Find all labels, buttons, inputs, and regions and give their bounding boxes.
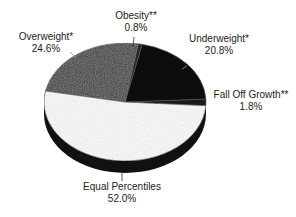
- label-overweight: Overweight* 24.6%: [19, 31, 73, 55]
- label-equal-percentiles-name: Equal Percentiles: [83, 181, 161, 193]
- label-fall-off-growth-pct: 1.8%: [214, 101, 289, 113]
- label-underweight: Underweight* 20.8%: [189, 33, 249, 57]
- label-underweight-name: Underweight*: [189, 33, 249, 45]
- label-equal-percentiles: Equal Percentiles 52.0%: [83, 181, 161, 205]
- pie-slices: [44, 43, 206, 161]
- label-obesity-name: Obesity**: [115, 10, 157, 22]
- label-equal-percentiles-pct: 52.0%: [83, 193, 161, 205]
- label-overweight-pct: 24.6%: [19, 43, 73, 55]
- label-underweight-pct: 20.8%: [189, 45, 249, 57]
- label-obesity: Obesity** 0.8%: [115, 10, 157, 34]
- label-fall-off-growth: Fall Off Growth** 1.8%: [214, 89, 289, 113]
- label-fall-off-growth-name: Fall Off Growth**: [214, 89, 289, 101]
- label-overweight-name: Overweight*: [19, 31, 73, 43]
- label-obesity-pct: 0.8%: [115, 22, 157, 34]
